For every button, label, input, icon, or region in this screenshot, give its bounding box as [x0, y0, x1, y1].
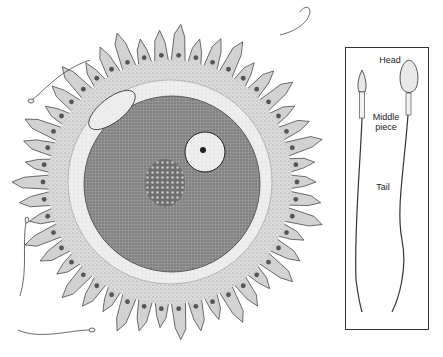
corona-cell-nucleus: [241, 76, 246, 81]
corona-cell-nucleus: [293, 197, 298, 202]
corona-cell-nucleus: [284, 129, 289, 134]
corona-cell-nucleus: [226, 292, 231, 297]
corona-cell-nucleus: [290, 145, 295, 150]
corona-cell-nucleus: [142, 55, 147, 60]
corona-cell-nucleus: [284, 230, 289, 235]
corona-cell-nucleus: [69, 99, 74, 104]
ovum-diagram: Head Middle piece Tail: [0, 0, 443, 357]
corona-cell-nucleus: [81, 87, 86, 92]
corona-cell-nucleus: [109, 67, 114, 72]
corona-cell-nucleus: [125, 299, 130, 304]
corona-cell-nucleus: [193, 304, 198, 309]
corona-cell-nucleus: [42, 162, 47, 167]
corona-cell-nucleus: [176, 53, 181, 58]
corona-cell-nucleus: [193, 55, 198, 60]
corona-cell-nucleus: [159, 53, 164, 58]
corona-cell-nucleus: [295, 180, 300, 185]
corona-cell-nucleus: [109, 292, 114, 297]
corona-cell-nucleus: [254, 272, 259, 277]
corona-cell-nucleus: [81, 272, 86, 277]
corona-cell-nucleus: [142, 304, 147, 309]
label-tail: Tail: [368, 182, 398, 192]
corona-cell-nucleus: [176, 306, 181, 311]
corona-cell-nucleus: [276, 246, 281, 251]
yolk-granules: [145, 159, 185, 207]
corona-cell-nucleus: [51, 230, 56, 235]
corona-cell-nucleus: [266, 99, 271, 104]
corona-cell-nucleus: [290, 214, 295, 219]
label-head: Head: [370, 55, 410, 65]
corona-cell-nucleus: [210, 60, 215, 65]
corona-cell-nucleus: [51, 129, 56, 134]
corona-cell-nucleus: [125, 60, 130, 65]
corona-cell-nucleus: [45, 214, 50, 219]
corona-cell-nucleus: [69, 260, 74, 265]
corona-cell-nucleus: [159, 306, 164, 311]
corona-cell-nucleus: [241, 283, 246, 288]
label-middle-piece: Middle piece: [366, 112, 406, 132]
corona-cell-nucleus: [42, 197, 47, 202]
corona-cell-nucleus: [210, 299, 215, 304]
corona-cell-nucleus: [94, 76, 99, 81]
corona-cell-nucleus: [45, 145, 50, 150]
corona-cell-nucleus: [94, 283, 99, 288]
corona-cell-nucleus: [293, 162, 298, 167]
nucleolus: [200, 147, 206, 153]
corona-cell-nucleus: [59, 246, 64, 251]
corona-cell-nucleus: [276, 114, 281, 119]
corona-cell-nucleus: [266, 260, 271, 265]
corona-cell-nucleus: [41, 180, 46, 185]
corona-cell-nucleus: [254, 87, 259, 92]
corona-cell-nucleus: [226, 67, 231, 72]
corona-cell-nucleus: [59, 114, 64, 119]
